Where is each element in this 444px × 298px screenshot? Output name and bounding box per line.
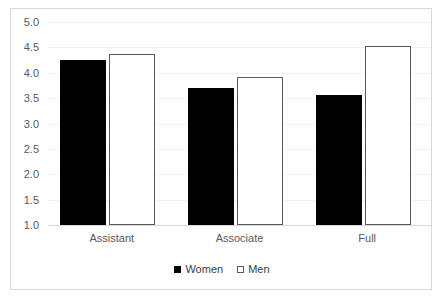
legend-swatch-icon xyxy=(237,266,244,273)
y-axis-tick-label: 2.0 xyxy=(24,169,39,180)
bar-associate-women xyxy=(188,88,234,225)
x-axis-label-associate: Associate xyxy=(216,233,264,244)
bar-associate-men xyxy=(237,77,283,225)
legend-entry-women[interactable]: Women xyxy=(174,264,223,275)
bar-chart: 5.04.54.03.53.02.52.01.51.0 AssistantAss… xyxy=(0,0,444,298)
legend-label: Women xyxy=(185,264,223,275)
chart-legend: WomenMen xyxy=(0,264,444,275)
gridline xyxy=(48,225,431,226)
y-axis-tick-label: 4.5 xyxy=(24,42,39,53)
x-axis-label-full: Full xyxy=(358,233,376,244)
y-axis-tick-label: 3.5 xyxy=(24,93,39,104)
legend-label: Men xyxy=(248,264,269,275)
y-axis-tick-label: 1.5 xyxy=(24,194,39,205)
plot-area: 5.04.54.03.53.02.52.01.51.0 xyxy=(48,22,431,225)
legend-swatch-icon xyxy=(174,266,181,273)
y-axis-tick-label: 5.0 xyxy=(24,17,39,28)
y-axis-tick-label: 1.0 xyxy=(24,220,39,231)
bar-full-men xyxy=(365,46,411,225)
x-axis-label-assistant: Assistant xyxy=(90,233,135,244)
legend-entry-men[interactable]: Men xyxy=(237,264,269,275)
bar-assistant-men xyxy=(109,54,155,225)
y-axis-tick-label: 3.0 xyxy=(24,118,39,129)
bars-layer xyxy=(48,22,431,225)
bar-assistant-women xyxy=(60,60,106,225)
y-axis-tick-label: 4.0 xyxy=(24,67,39,78)
bar-full-women xyxy=(316,95,362,225)
y-axis-tick-label: 2.5 xyxy=(24,143,39,154)
